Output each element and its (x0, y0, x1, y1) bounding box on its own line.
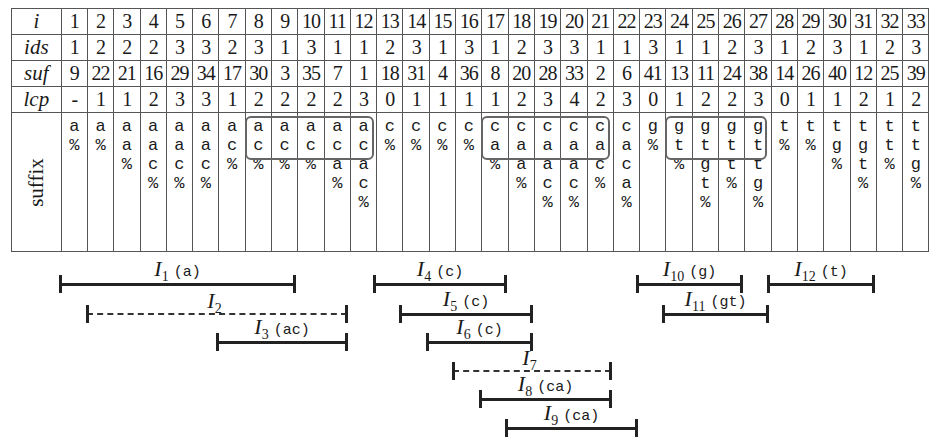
interval-9: I9(ca) (506, 427, 637, 430)
row-label-suffix: suffix (24, 158, 49, 207)
cell-ids: 2 (114, 35, 140, 61)
suffix-char: a (193, 117, 218, 136)
suffix-char: c (403, 117, 428, 136)
suffix-char: % (588, 174, 613, 193)
cell-ids: 2 (219, 35, 245, 61)
cell-ids: 2 (377, 35, 403, 61)
cell-lcp: 1 (114, 87, 140, 113)
suffix-char: % (614, 193, 639, 212)
cell-i: 23 (640, 9, 666, 35)
interval-label: I9(ca) (506, 400, 637, 429)
cell-ids: 1 (771, 35, 797, 61)
cell-i: 29 (797, 9, 823, 35)
suffix-char: % (193, 174, 218, 193)
suffix-char: % (88, 136, 113, 155)
suffix-char: g (640, 117, 665, 136)
cell-suf: 30 (245, 61, 271, 87)
cell-suf: 17 (219, 61, 245, 87)
cell-suffix: aac% (166, 113, 192, 252)
interval-label: I8(ca) (480, 371, 611, 400)
suffix-char: % (114, 155, 139, 174)
cell-ids: 1 (324, 35, 350, 61)
interval-label: I5(c) (400, 286, 532, 315)
row-label-lcp: lcp (12, 87, 62, 113)
suffix-char: % (851, 174, 876, 193)
suffix-char: % (377, 136, 402, 155)
cell-ids: 3 (640, 35, 666, 61)
interval-index: 9 (551, 413, 558, 428)
interval-index: 12 (802, 269, 816, 284)
suffix-char: c (377, 117, 402, 136)
row-lcp: lcp-11233122223011112342301223011212 (12, 87, 929, 113)
suffix-chars: aac% (167, 113, 192, 193)
interval-symbol: I (254, 314, 261, 339)
suffix-char: % (167, 174, 192, 193)
cell-lcp: 2 (245, 87, 271, 113)
cell-i: 7 (219, 9, 245, 35)
cell-suf: 28 (534, 61, 560, 87)
interval-label: I11(gt) (663, 286, 768, 315)
interval-index: 3 (262, 327, 269, 342)
suffix-char: a (167, 117, 192, 136)
interval-11: I11(gt) (663, 313, 768, 316)
interval-symbol: I (685, 286, 692, 311)
cell-i: 12 (350, 9, 376, 35)
cell-ids: 1 (482, 35, 508, 61)
suffix-char: c (430, 117, 455, 136)
cell-suf: 20 (508, 61, 534, 87)
suffix-chars: tgt% (851, 113, 876, 193)
suffix-char: g (824, 136, 849, 155)
cell-lcp: 3 (350, 87, 376, 113)
cell-i: 1 (61, 9, 87, 35)
suffix-chars: ttg% (903, 113, 928, 193)
cell-suf: 24 (719, 61, 745, 87)
suffix-char: a (219, 117, 244, 136)
suffix-char: g (745, 174, 770, 193)
suffix-chars: caca% (614, 113, 639, 212)
cell-ids: 3 (298, 35, 324, 61)
interval-symbol: I (154, 256, 161, 281)
cell-ids: 3 (824, 35, 850, 61)
suffix-chars: g% (640, 113, 665, 155)
interval-index: 10 (670, 269, 684, 284)
suffix-chars: tt% (877, 113, 902, 174)
cell-lcp: 2 (692, 87, 718, 113)
cell-i: 19 (534, 9, 560, 35)
cell-ids: 3 (456, 35, 482, 61)
cell-suf: 40 (824, 61, 850, 87)
cell-i: 21 (587, 9, 613, 35)
row-ids: ids122233231311231312331131123123123 (12, 35, 929, 61)
interval-chars: (ca) (563, 408, 599, 425)
suffix-chars: c% (377, 113, 402, 155)
interval-chars: (c) (476, 322, 503, 339)
cell-i: 6 (193, 9, 219, 35)
cell-i: 32 (876, 9, 902, 35)
cell-suffix: t% (771, 113, 797, 252)
suffix-char: c (219, 136, 244, 155)
interval-3: I3(ac) (217, 341, 347, 344)
suffix-char: c (193, 155, 218, 174)
cell-suf: 6 (613, 61, 639, 87)
interval-symbol: I (522, 345, 529, 370)
suffix-chars: a% (88, 113, 113, 155)
suffix-char: a (141, 117, 166, 136)
cell-ids: 2 (87, 35, 113, 61)
cell-lcp: 1 (797, 87, 823, 113)
suffix-char: % (351, 193, 376, 212)
suffix-char: a (88, 117, 113, 136)
cell-suf: 13 (666, 61, 692, 87)
cell-lcp: 1 (482, 87, 508, 113)
cell-suf: 29 (166, 61, 192, 87)
cell-suf: 18 (377, 61, 403, 87)
cell-lcp: 2 (140, 87, 166, 113)
cell-suf: 14 (771, 61, 797, 87)
cell-lcp: 1 (87, 87, 113, 113)
cell-suf: 11 (692, 61, 718, 87)
cell-suffix: t% (797, 113, 823, 252)
cell-suffix: c% (456, 113, 482, 252)
suffix-char: % (903, 174, 928, 193)
cell-suf: 25 (876, 61, 902, 87)
common-prefix-box (665, 116, 768, 160)
suffix-char: a (614, 136, 639, 155)
cell-i: 20 (561, 9, 587, 35)
